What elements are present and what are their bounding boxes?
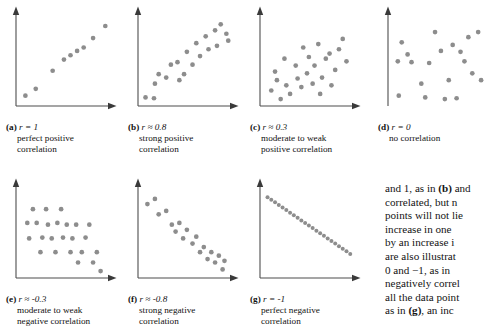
panel-label-d: (d) (378, 122, 389, 132)
scatter-plot-b (128, 6, 240, 122)
scatter-plot-c (250, 6, 362, 122)
panel-desc2-f: correlation (128, 316, 240, 327)
panel-e: (e) r ≈ -0.3 moderate to weak negative c… (6, 178, 118, 328)
body-text-line: negatively correl (385, 277, 494, 291)
scatter-plot-a (6, 6, 118, 122)
panel-r-c: r ≈ 0.3 (263, 122, 288, 132)
caption-d: (d) r = 0 no correlation (378, 122, 494, 144)
panel-c: (c) r ≈ 0.3 moderate to weak positive co… (250, 6, 362, 156)
scatter-svg-b (128, 6, 240, 118)
body-text-line: 0 and −1, as in (385, 264, 494, 278)
body-text-line: by an increase i (385, 236, 494, 250)
scatter-svg-f (128, 178, 240, 290)
body-text-line: points will not lie (385, 209, 494, 223)
panel-label-g: (g) (250, 294, 261, 304)
scatter-plot-f (128, 178, 240, 294)
body-text-line: are also illustrat (385, 250, 494, 264)
panel-f: (f) r ≈ -0.8 strong negative correlation (128, 178, 240, 328)
panel-desc2-c: positive correlation (250, 144, 362, 155)
panel-desc1-f: strong negative (128, 305, 240, 316)
scatter-svg-d (378, 6, 494, 118)
panel-r-g: r = -1 (263, 294, 285, 304)
scatter-svg-e (6, 178, 118, 290)
scatter-plot-e (6, 178, 118, 294)
scatter-svg-a (6, 6, 118, 118)
panel-r-e: r ≈ -0.3 (19, 294, 47, 304)
caption-a: (a) r = 1 perfect positive correlation (6, 122, 118, 156)
body-text-line: and 1, as in (b) and (385, 182, 494, 196)
panel-desc2-b: correlation (128, 144, 240, 155)
body-text-line: correlated, but n (385, 196, 494, 210)
panel-r-f: r ≈ -0.8 (139, 294, 167, 304)
panel-label-f: (f) (128, 294, 137, 304)
scatter-svg-g (250, 178, 362, 290)
caption-b: (b) r ≈ 0.8 strong positive correlation (128, 122, 240, 156)
scatter-plot-d (378, 6, 494, 122)
panel-b: (b) r ≈ 0.8 strong positive correlation (128, 6, 240, 156)
figure-container: (a) r = 1 perfect positive correlation (… (0, 0, 494, 336)
panel-r-d: r = 0 (392, 122, 411, 132)
scatter-plot-g (250, 178, 362, 294)
panel-desc1-e: moderate to weak (6, 305, 118, 316)
panel-a: (a) r = 1 perfect positive correlation (6, 6, 118, 156)
panel-label-c: (c) (250, 122, 260, 132)
body-text-line: as in (g), an inc (385, 304, 494, 318)
caption-g: (g) r = -1 perfect negative correlation (250, 294, 362, 328)
panel-label-a: (a) (6, 122, 17, 132)
panel-desc1-g: perfect negative (250, 305, 362, 316)
panel-desc1-c: moderate to weak (250, 133, 362, 144)
scatter-svg-c (250, 6, 362, 118)
caption-c: (c) r ≈ 0.3 moderate to weak positive co… (250, 122, 362, 156)
caption-f: (f) r ≈ -0.8 strong negative correlation (128, 294, 240, 328)
panel-desc2-e: negative correlation (6, 316, 118, 327)
caption-e: (e) r ≈ -0.3 moderate to weak negative c… (6, 294, 118, 328)
panel-r-a: r = 1 (19, 122, 38, 132)
panel-d: (d) r = 0 no correlation (378, 6, 494, 144)
panel-desc2-a: correlation (6, 144, 118, 155)
panel-desc2-g: correlation (250, 316, 362, 327)
panel-g: (g) r = -1 perfect negative correlation (250, 178, 362, 328)
body-text-line: all the data point (385, 291, 494, 305)
body-text-line: increase in one (385, 223, 494, 237)
panel-desc1-b: strong positive (128, 133, 240, 144)
body-text-column: and 1, as in (b) andcorrelated, but npoi… (385, 182, 494, 336)
panel-label-e: (e) (6, 294, 16, 304)
panel-r-b: r ≈ 0.8 (142, 122, 167, 132)
panel-desc1-a: perfect positive (6, 133, 118, 144)
panel-label-b: (b) (128, 122, 139, 132)
panel-desc1-d: no correlation (378, 133, 494, 144)
